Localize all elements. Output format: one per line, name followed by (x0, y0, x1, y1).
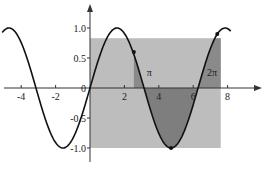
x-tick-label: -2 (51, 91, 59, 102)
data-point (215, 32, 219, 36)
annotation-label: 2π (207, 67, 217, 78)
y-tick-label: 0.5 (74, 53, 87, 64)
x-tick-label: 2 (122, 91, 127, 102)
y-tick-label: -1.0 (70, 143, 86, 154)
x-axis-arrow-icon (254, 85, 262, 91)
x-tick-label: 8 (225, 91, 230, 102)
y-tick-label: -0.5 (70, 113, 86, 124)
x-tick-label: 6 (191, 91, 196, 102)
x-tick-label: 4 (156, 91, 161, 102)
data-point (132, 50, 136, 54)
y-tick-label: 1.0 (74, 23, 87, 34)
y-tick-label: 0 (81, 83, 86, 94)
data-point (169, 146, 173, 150)
y-axis-arrow-icon (87, 4, 93, 12)
x-tick-label: -4 (17, 91, 25, 102)
sine-chart: -4-224681.00.50-0.5-1.0 π2π (0, 0, 264, 169)
annotation-label: π (147, 67, 152, 78)
